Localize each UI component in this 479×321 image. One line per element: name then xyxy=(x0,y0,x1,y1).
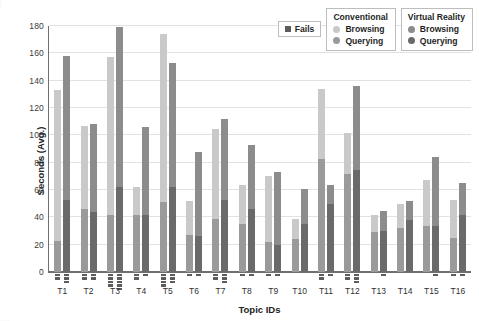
x-axis-tick: T12 xyxy=(345,286,360,296)
bar-virtual-reality[interactable] xyxy=(169,26,176,272)
fail-block xyxy=(170,274,175,276)
bar-virtual-reality[interactable] xyxy=(90,26,97,272)
bar-segment-querying xyxy=(459,215,466,272)
fail-block xyxy=(319,277,324,279)
fail-block xyxy=(345,277,350,279)
bar-conventional[interactable] xyxy=(423,26,430,272)
y-axis-tick: 140 xyxy=(29,76,44,86)
fail-block xyxy=(55,277,60,279)
legend-item-vr-querying: Querying xyxy=(408,36,465,46)
bar-segment-querying xyxy=(318,159,325,272)
x-axis-tick: T16 xyxy=(450,286,465,296)
bar-group: T2 xyxy=(75,26,101,272)
bar-virtual-reality[interactable] xyxy=(353,26,360,272)
bar-segment-browsing xyxy=(344,133,351,174)
bar-conventional[interactable] xyxy=(133,26,140,272)
bar-conventional[interactable] xyxy=(160,26,167,272)
y-axis-tick: 60 xyxy=(34,185,44,195)
bar-virtual-reality[interactable] xyxy=(116,26,123,272)
bars-area: T1T2T3T4T5T6T7T8T9T10T11T12T13T14T15T16 xyxy=(49,26,471,272)
bar-segment-querying xyxy=(371,232,378,272)
fail-block xyxy=(134,274,139,276)
bar-conventional[interactable] xyxy=(371,26,378,272)
bar-virtual-reality[interactable] xyxy=(380,26,387,272)
bar-conventional[interactable] xyxy=(239,26,246,272)
bar-conventional[interactable] xyxy=(212,26,219,272)
bar-conventional[interactable] xyxy=(318,26,325,272)
fail-block xyxy=(117,281,122,283)
bar-segment-querying xyxy=(327,204,334,272)
bar-group: T13 xyxy=(366,26,392,272)
bar-chart: Seconds (Avg.) Topic IDs 020406080100120… xyxy=(0,0,479,321)
bar-segment-querying xyxy=(116,187,123,272)
fails-marker xyxy=(63,272,70,283)
legend-group-title: Conventional xyxy=(333,12,387,22)
bar-segment-querying xyxy=(212,219,219,272)
bar-virtual-reality[interactable] xyxy=(142,26,149,272)
bar-conventional[interactable] xyxy=(186,26,193,272)
bar-virtual-reality[interactable] xyxy=(459,26,466,272)
bar-conventional[interactable] xyxy=(107,26,114,272)
bar-segment-querying xyxy=(248,209,255,272)
fail-block xyxy=(161,281,166,283)
bar-segment-querying xyxy=(423,226,430,272)
bar-conventional[interactable] xyxy=(397,26,404,272)
legend-item-vr-browsing: Browsing xyxy=(408,24,465,34)
bar-segment-browsing xyxy=(142,127,149,214)
x-axis-tick: T6 xyxy=(189,286,199,296)
bar-group: T7 xyxy=(207,26,233,272)
bar-segment-querying xyxy=(107,215,114,272)
legend-item-label: Querying xyxy=(345,36,383,46)
x-axis-tick: T7 xyxy=(215,286,225,296)
fail-block xyxy=(55,274,60,276)
bar-virtual-reality[interactable] xyxy=(327,26,334,272)
bar-conventional[interactable] xyxy=(344,26,351,272)
legend: Fails Conventional Browsing Querying Vir… xyxy=(278,8,473,51)
bar-segment-querying xyxy=(274,245,281,272)
fail-block xyxy=(354,274,359,276)
bar-virtual-reality[interactable] xyxy=(406,26,413,272)
legend-item-label: Querying xyxy=(420,36,458,46)
fail-block xyxy=(187,274,192,276)
fail-block xyxy=(108,277,113,279)
fail-block xyxy=(433,274,438,276)
fails-marker xyxy=(169,272,176,283)
x-axis-tick: T3 xyxy=(110,286,120,296)
legend-item-label: Browsing xyxy=(345,24,384,34)
fails-marker xyxy=(186,272,193,276)
bar-segment-browsing xyxy=(450,200,457,238)
bar-virtual-reality[interactable] xyxy=(221,26,228,272)
bar-virtual-reality[interactable] xyxy=(301,26,308,272)
bar-segment-querying xyxy=(169,187,176,272)
bar-conventional[interactable] xyxy=(54,26,61,272)
fail-block xyxy=(82,277,87,279)
bar-virtual-reality[interactable] xyxy=(274,26,281,272)
bar-segment-browsing xyxy=(160,34,167,202)
bar-virtual-reality[interactable] xyxy=(63,26,70,272)
legend-item-label: Browsing xyxy=(420,24,459,34)
x-axis-tick: T11 xyxy=(319,286,333,296)
legend-group-virtual-reality: Virtual Reality Browsing Querying xyxy=(401,8,473,51)
bar-segment-querying xyxy=(142,215,149,272)
bar-virtual-reality[interactable] xyxy=(248,26,255,272)
bar-virtual-reality[interactable] xyxy=(432,26,439,272)
bar-conventional[interactable] xyxy=(450,26,457,272)
bar-segment-browsing xyxy=(318,89,325,159)
bar-segment-browsing xyxy=(63,56,70,200)
bar-conventional[interactable] xyxy=(81,26,88,272)
bar-segment-querying xyxy=(239,224,246,272)
bar-conventional[interactable] xyxy=(292,26,299,272)
bar-segment-querying xyxy=(186,235,193,272)
fail-block xyxy=(170,277,175,279)
bar-group: T4 xyxy=(128,26,154,272)
fail-block xyxy=(108,274,113,276)
y-axis-tick: 20 xyxy=(34,240,44,250)
bar-segment-browsing xyxy=(239,185,246,225)
bar-virtual-reality[interactable] xyxy=(195,26,202,272)
bar-group: T3 xyxy=(102,26,128,272)
legend-fails-label: Fails xyxy=(295,24,315,34)
legend-swatch-icon xyxy=(333,37,340,44)
bar-conventional[interactable] xyxy=(265,26,272,272)
bar-group: T5 xyxy=(155,26,181,272)
fails-marker xyxy=(107,272,114,287)
